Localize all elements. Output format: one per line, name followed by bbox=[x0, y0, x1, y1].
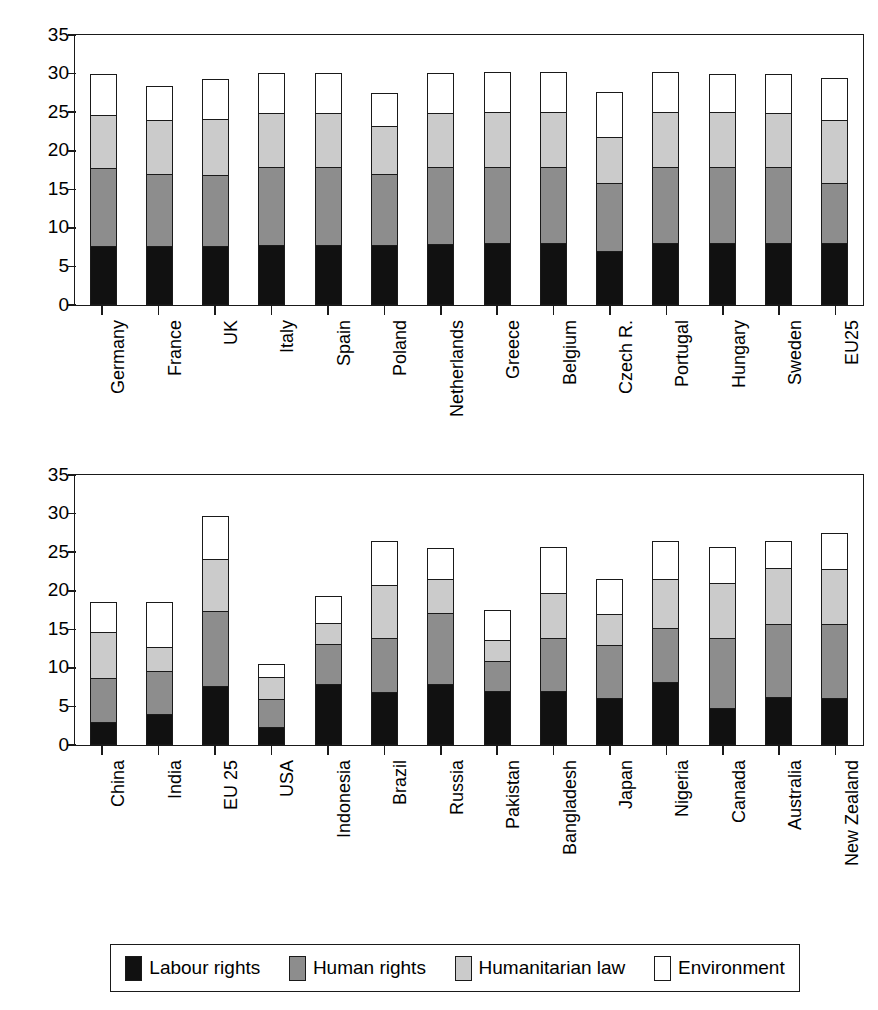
bar-segment bbox=[427, 579, 454, 614]
x-tick bbox=[300, 306, 356, 316]
bar-segment bbox=[821, 120, 848, 184]
plot-area-bottom: 05101520253035 bbox=[74, 474, 864, 746]
legend-label: Labour rights bbox=[149, 957, 260, 979]
bar-segment bbox=[371, 692, 398, 745]
x-label-column: Belgium bbox=[525, 318, 581, 448]
bar-segment bbox=[484, 72, 511, 114]
bar-segment bbox=[821, 78, 848, 121]
x-axis-category-label: USA bbox=[278, 760, 296, 797]
x-tick bbox=[130, 746, 186, 756]
x-axis-category-label: Greece bbox=[504, 320, 522, 379]
x-tick bbox=[469, 306, 525, 316]
bar-segment bbox=[540, 167, 567, 245]
legend-label: Environment bbox=[678, 957, 785, 979]
x-label-column: EU25 bbox=[807, 318, 863, 448]
bar-segment bbox=[484, 610, 511, 641]
x-axis-category-label: Nigeria bbox=[673, 760, 691, 817]
x-tick-mark bbox=[384, 306, 386, 315]
x-axis-ticks-bottom bbox=[74, 746, 864, 756]
stacked-bar bbox=[371, 89, 398, 305]
bar-segment bbox=[596, 579, 623, 615]
bar-segment bbox=[146, 174, 173, 247]
x-tick-mark bbox=[384, 746, 386, 755]
stacked-bar bbox=[709, 70, 736, 305]
x-label-column: Nigeria bbox=[638, 758, 694, 888]
bar-segment bbox=[427, 613, 454, 686]
bar-segment bbox=[765, 167, 792, 244]
x-label-column: Brazil bbox=[356, 758, 412, 888]
bar-segment bbox=[427, 113, 454, 169]
stacked-bar bbox=[371, 537, 398, 745]
bar-segment bbox=[765, 243, 792, 305]
x-axis-category-label: Czech R. bbox=[617, 320, 635, 394]
x-label-column: EU 25 bbox=[187, 758, 243, 888]
x-axis-category-label: New Zealand bbox=[843, 760, 861, 866]
bar-segment bbox=[371, 126, 398, 175]
x-tick-mark bbox=[722, 306, 724, 315]
bar-segment bbox=[315, 245, 342, 305]
stacked-bar bbox=[146, 598, 173, 745]
x-tick bbox=[469, 746, 525, 756]
x-label-column: India bbox=[130, 758, 186, 888]
x-tick bbox=[525, 746, 581, 756]
x-tick-mark bbox=[553, 306, 555, 315]
x-axis-category-label: Bangladesh bbox=[561, 760, 579, 855]
chart-legend: Labour rightsHuman rightsHumanitarian la… bbox=[110, 944, 800, 992]
x-axis-category-label: EU 25 bbox=[222, 760, 240, 810]
x-axis-category-label: EU25 bbox=[843, 320, 861, 365]
bar-segment bbox=[540, 547, 567, 595]
stacked-bar bbox=[258, 660, 285, 745]
stacked-bar bbox=[427, 544, 454, 745]
bar-segment bbox=[146, 647, 173, 673]
x-label-column: Bangladesh bbox=[525, 758, 581, 888]
bar-column bbox=[807, 475, 863, 745]
bar-column bbox=[694, 475, 750, 745]
x-axis-category-label: Poland bbox=[391, 320, 409, 376]
bar-segment bbox=[596, 137, 623, 184]
x-tick bbox=[356, 746, 412, 756]
bar-column bbox=[188, 475, 244, 745]
x-tick bbox=[582, 306, 638, 316]
legend-item: Labour rights bbox=[125, 956, 260, 981]
x-label-column: Japan bbox=[582, 758, 638, 888]
bar-segment bbox=[652, 682, 679, 745]
x-label-column: Greece bbox=[469, 318, 525, 448]
bar-segment bbox=[765, 541, 792, 570]
bar-segment bbox=[652, 112, 679, 168]
bar-segment bbox=[90, 168, 117, 247]
bar-segment bbox=[371, 174, 398, 247]
stacked-bar bbox=[90, 70, 117, 305]
bar-segment bbox=[540, 691, 567, 745]
x-axis-category-label: Germany bbox=[109, 320, 127, 394]
x-tick bbox=[300, 746, 356, 756]
x-tick-mark bbox=[101, 746, 103, 755]
x-tick-mark bbox=[722, 746, 724, 755]
bar-segment bbox=[258, 245, 285, 305]
bar-segment bbox=[765, 624, 792, 699]
x-label-column: China bbox=[74, 758, 130, 888]
bar-group-top bbox=[75, 35, 863, 305]
x-axis-category-label: Italy bbox=[278, 320, 296, 353]
bar-segment bbox=[540, 112, 567, 168]
bar-column bbox=[525, 475, 581, 745]
x-label-column: Russia bbox=[413, 758, 469, 888]
bar-segment bbox=[709, 708, 736, 745]
stacked-bar bbox=[427, 69, 454, 305]
x-tick bbox=[413, 746, 469, 756]
x-axis-category-label: Hungary bbox=[730, 320, 748, 388]
x-axis-category-label: Indonesia bbox=[335, 760, 353, 838]
bar-segment bbox=[371, 585, 398, 640]
x-axis-category-label: Netherlands bbox=[448, 320, 466, 417]
bar-column bbox=[807, 35, 863, 305]
bar-segment bbox=[371, 245, 398, 305]
bar-segment bbox=[765, 568, 792, 625]
x-tick-mark bbox=[327, 306, 329, 315]
x-axis-category-label: Russia bbox=[448, 760, 466, 815]
bar-segment bbox=[484, 640, 511, 663]
bar-segment bbox=[484, 167, 511, 244]
legend-swatch bbox=[125, 956, 142, 981]
x-tick-mark bbox=[835, 746, 837, 755]
x-tick-mark bbox=[158, 306, 160, 315]
bar-segment bbox=[765, 74, 792, 115]
bar-segment bbox=[540, 72, 567, 114]
